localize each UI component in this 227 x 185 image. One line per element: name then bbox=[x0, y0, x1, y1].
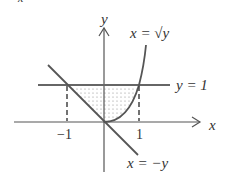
horizontal-line-label: y = 1 bbox=[176, 78, 208, 93]
x-axis-label: x bbox=[209, 118, 216, 133]
diagonal-line-label: x = −y bbox=[127, 156, 168, 171]
tick-one: 1 bbox=[136, 128, 143, 142]
corner-glyph: x bbox=[18, 0, 23, 4]
sqrt-curve-label: x = √y bbox=[130, 26, 169, 41]
tick-neg-one: −1 bbox=[57, 128, 72, 142]
y-axis-label: y bbox=[101, 12, 108, 27]
shaded-region bbox=[67, 85, 139, 122]
